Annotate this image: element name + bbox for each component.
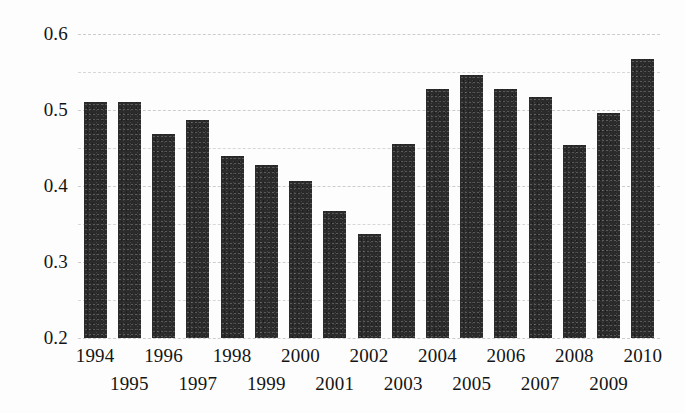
x-tick-label-1997: 1997 <box>178 373 217 395</box>
bar-2004 <box>426 89 449 338</box>
bar-1995 <box>118 102 141 338</box>
bar-2000 <box>289 181 312 338</box>
bar-2008 <box>563 145 586 338</box>
x-tick-label-2006: 2006 <box>487 345 526 367</box>
x-tick-label-2000: 2000 <box>281 345 320 367</box>
bar-2007 <box>529 97 552 338</box>
bar-2001 <box>323 211 346 338</box>
x-tick-label-1998: 1998 <box>213 345 252 367</box>
x-tick-label-1996: 1996 <box>144 345 183 367</box>
x-tick-label-2009: 2009 <box>589 373 628 395</box>
x-tick-label-2003: 2003 <box>384 373 423 395</box>
y-tick-label: 0.5 <box>44 99 68 121</box>
x-tick-label-1994: 1994 <box>76 345 115 367</box>
x-tick-label-1995: 1995 <box>110 373 149 395</box>
x-tick-label-2002: 2002 <box>350 345 389 367</box>
x-tick-label-2010: 2010 <box>623 345 662 367</box>
bar-1996 <box>152 134 175 338</box>
bar-2003 <box>392 144 415 338</box>
y-tick-label: 0.6 <box>44 23 68 45</box>
bar-chart-figure: 0.60.50.40.30.2 199419951996199719981999… <box>0 0 685 413</box>
bar-series <box>78 34 660 338</box>
bar-2010 <box>631 59 654 338</box>
plot-area <box>78 34 660 338</box>
bar-1997 <box>186 120 209 338</box>
x-tick-label-2008: 2008 <box>555 345 594 367</box>
y-tick-label: 0.4 <box>44 175 68 197</box>
bar-2009 <box>597 113 620 338</box>
x-tick-label-2007: 2007 <box>521 373 560 395</box>
x-axis: 1994199519961997199819992000200120022003… <box>0 338 685 413</box>
y-tick-label: 0.3 <box>44 251 68 273</box>
bar-1994 <box>84 102 107 338</box>
x-tick-label-2005: 2005 <box>452 373 491 395</box>
bar-1998 <box>221 156 244 338</box>
x-tick-label-2001: 2001 <box>315 373 354 395</box>
bar-2006 <box>494 89 517 338</box>
bar-2002 <box>358 234 381 338</box>
bar-2005 <box>460 75 483 338</box>
bar-1999 <box>255 165 278 338</box>
x-tick-label-1999: 1999 <box>247 373 286 395</box>
x-tick-label-2004: 2004 <box>418 345 457 367</box>
